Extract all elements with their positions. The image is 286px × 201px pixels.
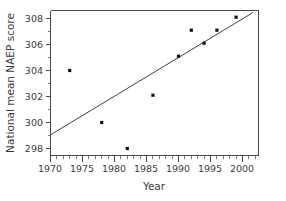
x-tick-label-1980: 1980 [102, 163, 126, 174]
data-points-group [68, 16, 238, 150]
data-point [215, 29, 218, 32]
data-point [203, 42, 206, 45]
trend-line [51, 13, 253, 135]
data-point [235, 16, 238, 19]
x-axis-ticks [51, 156, 243, 162]
data-point [151, 94, 154, 97]
plot-frame [51, 11, 259, 156]
data-point [126, 147, 129, 150]
x-tick-label-1970: 1970 [38, 163, 62, 174]
x-tick-label-1985: 1985 [134, 163, 158, 174]
y-axis-tick-labels: 308 306 304 302 300 298 [25, 13, 43, 154]
y-tick-label-300: 300 [25, 117, 43, 128]
y-tick-label-298: 298 [25, 143, 43, 154]
x-tick-label-1990: 1990 [166, 163, 190, 174]
y-tick-label-308: 308 [25, 13, 43, 24]
data-point [68, 69, 71, 72]
y-tick-label-302: 302 [25, 91, 43, 102]
x-axis-minor-ticks [57, 156, 255, 160]
y-tick-label-306: 306 [25, 39, 43, 50]
x-tick-label-1975: 1975 [70, 163, 94, 174]
data-point [100, 121, 103, 124]
x-tick-label-2000: 2000 [230, 163, 254, 174]
y-tick-label-304: 304 [25, 65, 43, 76]
x-tick-label-1995: 1995 [198, 163, 222, 174]
data-point [190, 29, 193, 32]
chart-canvas: 308 306 304 302 300 298 [0, 0, 286, 201]
data-point [177, 55, 180, 58]
naep-scatter-figure: 308 306 304 302 300 298 [0, 0, 286, 201]
x-axis-tick-labels: 1970 1975 1980 1985 1990 1995 2000 [38, 163, 254, 174]
y-axis-title: National mean NAEP score [4, 13, 16, 153]
x-axis-title: Year [142, 180, 166, 192]
